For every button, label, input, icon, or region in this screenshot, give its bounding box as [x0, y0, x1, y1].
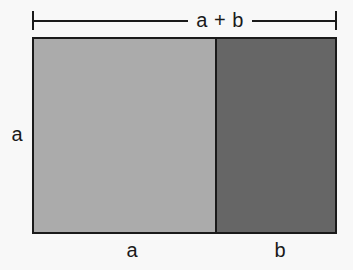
dimension-line-left-segment — [33, 20, 188, 22]
dimension-line-right-segment — [252, 20, 336, 22]
dimension-tick-right — [335, 11, 337, 30]
width-label-b: b — [244, 238, 316, 262]
height-label-a: a — [4, 122, 30, 146]
composite-rectangle — [32, 37, 337, 234]
region-square-a — [34, 39, 215, 232]
width-label-a: a — [96, 238, 168, 262]
region-rectangle-b — [215, 39, 335, 232]
diagram-canvas: a + b a a b — [0, 0, 353, 270]
dimension-label-total-width: a + b — [190, 7, 250, 33]
